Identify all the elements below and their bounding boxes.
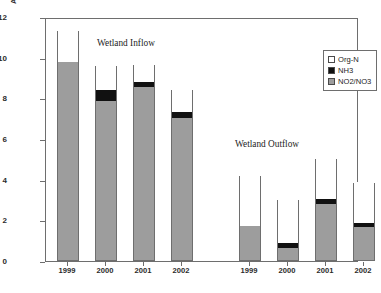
bar-wetland-outflow-2000 (277, 200, 299, 261)
segment-no2-no3 (316, 204, 336, 260)
bar-wetland-inflow-2001 (133, 65, 155, 261)
x-axis-tick-label: 2002 (341, 266, 381, 275)
y-axis-tick-label: 12 (0, 14, 7, 22)
bar-wetland-inflow-2002 (171, 90, 193, 261)
y-axis-tick-label: 8 (0, 95, 7, 103)
legend-swatch-nh3-icon (328, 67, 335, 74)
y-axis-tick-mark (40, 262, 45, 263)
y-axis-tick-label: 10 (0, 55, 7, 63)
legend-item-no2-no3: NO2/NO3 (328, 76, 371, 87)
legend-item-org-n: Org-N (328, 54, 371, 65)
legend-label-org-n: Org-N (338, 54, 359, 65)
y-axis-tick-label: 4 (0, 177, 7, 185)
segment-no2-no3 (172, 118, 192, 260)
legend-swatch-no2-no3-icon (328, 78, 335, 85)
legend-label-no2-no3: NO2/NO3 (338, 76, 371, 87)
legend-swatch-org-n-icon (328, 56, 335, 63)
y-axis-title-container: Avg. Conc. for Non Winter Months (mg N/L… (8, 12, 22, 262)
segment-nh3 (96, 90, 116, 101)
segment-org-n (96, 65, 116, 90)
plot-area: Org-N NH3 NO2/NO3 (45, 18, 358, 262)
bar-wetland-outflow-2001 (315, 159, 337, 261)
segment-no2-no3 (354, 227, 374, 260)
x-axis-tick-mark (249, 262, 250, 266)
segment-no2-no3 (240, 226, 260, 260)
x-axis-tick-mark (67, 262, 68, 266)
x-axis-tick-mark (143, 262, 144, 266)
y-axis-title: Avg. Conc. for Non Winter Months (mg N/L… (7, 0, 21, 40)
segment-org-n (58, 30, 78, 62)
x-axis-tick-mark (105, 262, 106, 266)
bar-wetland-outflow-1999 (239, 176, 261, 261)
annotation-wetland-outflow: Wetland Outflow (235, 139, 299, 149)
segment-org-n (316, 158, 336, 199)
segment-no2-no3 (96, 101, 116, 260)
x-axis-tick-mark (363, 262, 364, 266)
y-axis-tick-label: 2 (0, 217, 7, 225)
legend-item-nh3: NH3 (328, 65, 371, 76)
x-axis-tick-mark (181, 262, 182, 266)
annotation-wetland-inflow: Wetland Inflow (97, 38, 155, 48)
x-axis-tick-label: 2002 (159, 266, 203, 275)
segment-org-n (278, 199, 298, 243)
x-axis-tick-mark (287, 262, 288, 266)
segment-no2-no3 (278, 248, 298, 260)
segment-no2-no3 (134, 87, 154, 260)
bar-wetland-inflow-2000 (95, 66, 117, 261)
segment-org-n (354, 182, 374, 224)
bar-wetland-outflow-2002 (353, 183, 375, 261)
chart-legend: Org-N NH3 NO2/NO3 (323, 50, 377, 91)
x-axis-tick-mark (325, 262, 326, 266)
segment-no2-no3 (58, 62, 78, 260)
bar-wetland-inflow-1999 (57, 31, 79, 261)
y-axis-tick-label: 0 (0, 258, 7, 266)
y-axis-tick-label: 6 (0, 136, 7, 144)
segment-org-n (134, 64, 154, 82)
legend-label-nh3: NH3 (338, 65, 353, 76)
segment-org-n (172, 89, 192, 111)
segment-org-n (240, 175, 260, 227)
